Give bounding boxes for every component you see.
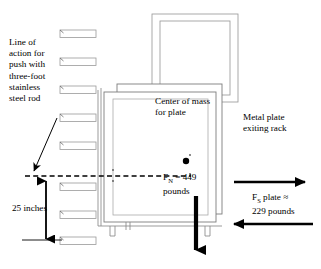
shear-force-value: plate ≈ 229 pounds (252, 192, 295, 216)
rack-shelf (60, 30, 96, 38)
leader-line (34, 118, 57, 171)
metal-plate-label: Metal plate exiting rack (243, 112, 287, 134)
center-of-mass-dot (183, 158, 189, 164)
rack-shelf (60, 142, 96, 150)
rack-shelf (60, 211, 96, 219)
force-diagram-figure: Line of action for push with three-foot … (0, 0, 321, 269)
rack-shelf (60, 58, 96, 66)
rack-shelf (60, 237, 96, 245)
rack-shelf (60, 183, 96, 191)
center-of-mass-label: Center of mass for plate (155, 96, 210, 118)
rack-shelf (60, 114, 96, 122)
line-of-action-label: Line of action for push with three-foot … (9, 37, 45, 104)
rack-shelves (60, 30, 96, 245)
rack-shelf (60, 86, 96, 94)
diagram-vector-layer (0, 0, 321, 269)
shear-force-label: FS plate ≈ 229 pounds (252, 192, 295, 217)
dimension-25-label: 25 inches (12, 203, 47, 214)
normal-force-label: FN = 449 pounds (163, 172, 196, 197)
